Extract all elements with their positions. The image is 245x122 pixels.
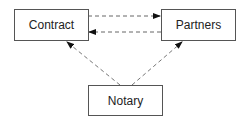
node-partners: Partners [161,9,236,41]
edge-notary-to-partners [132,42,182,85]
node-notary-label: Notary [108,94,143,108]
node-contract: Contract [14,9,89,41]
node-notary: Notary [88,85,163,116]
node-partners-label: Partners [176,18,221,32]
edge-notary-to-contract [67,42,120,85]
node-contract-label: Contract [29,18,74,32]
